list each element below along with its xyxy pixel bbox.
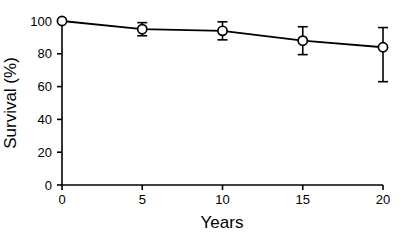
y-tick-label: 80 [38, 46, 52, 61]
y-tick-label: 40 [38, 112, 52, 127]
y-tick-label: 20 [38, 145, 52, 160]
y-axis-title: Survival (%) [1, 57, 20, 149]
y-tick-label: 100 [30, 14, 52, 29]
x-tick-label: 15 [296, 192, 310, 207]
data-point-marker [378, 43, 387, 52]
chart-canvas: 020406080100 05101520 Years Survival (%) [0, 0, 404, 240]
x-tick-label: 20 [376, 192, 390, 207]
data-point-marker [138, 25, 147, 34]
data-point-marker [298, 36, 307, 45]
data-point-marker [57, 16, 66, 25]
data-point-marker [218, 26, 227, 35]
x-tick-label: 10 [215, 192, 229, 207]
x-axis-title: Years [201, 213, 244, 232]
y-tick-label: 0 [45, 178, 52, 193]
y-tick-label: 60 [38, 79, 52, 94]
survival-chart: 020406080100 05101520 Years Survival (%) [0, 0, 404, 240]
x-tick-label: 0 [58, 192, 65, 207]
x-tick-label: 5 [139, 192, 146, 207]
